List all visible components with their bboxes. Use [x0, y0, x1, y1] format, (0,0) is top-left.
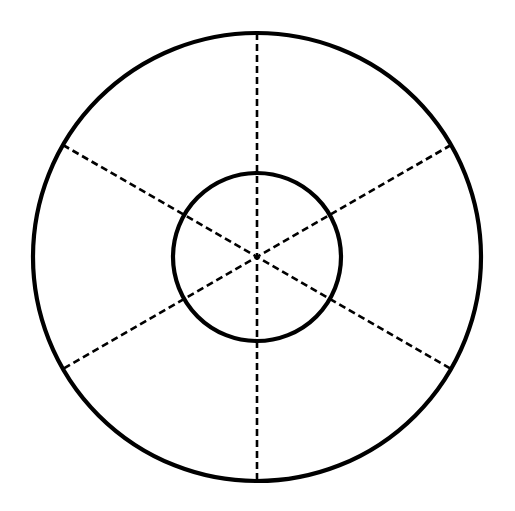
diagram-canvas: [0, 0, 515, 511]
annulus-sector-diagram: [0, 0, 515, 511]
